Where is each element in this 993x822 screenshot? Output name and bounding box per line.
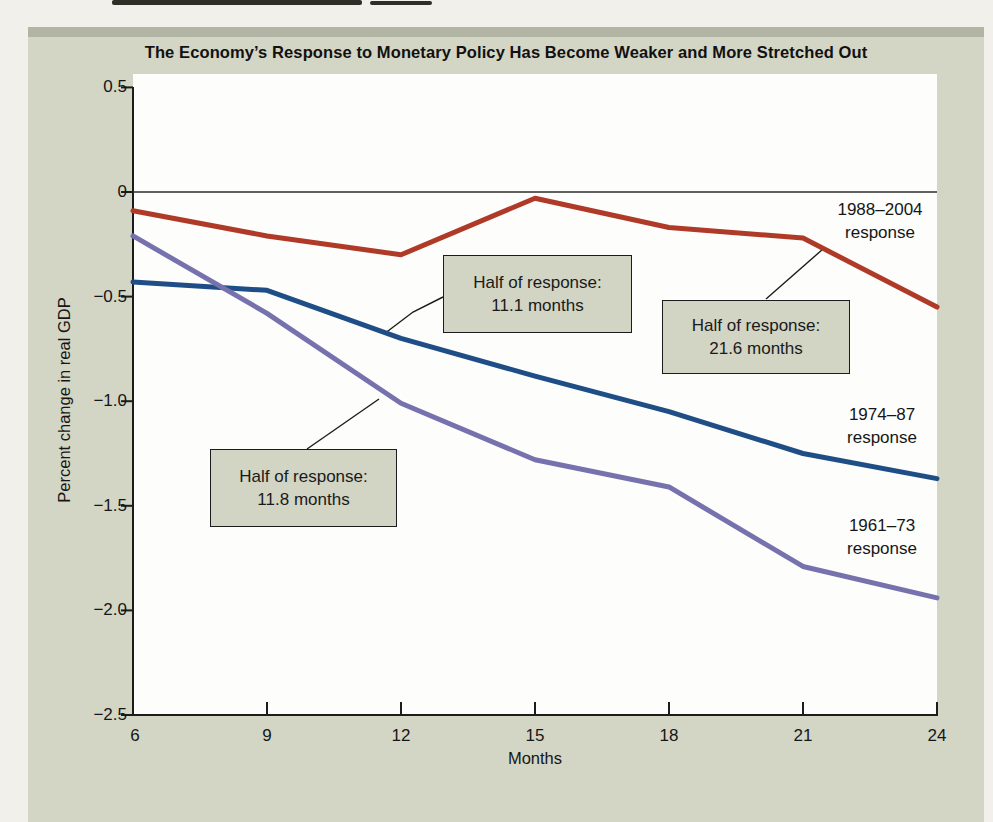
- x-axis-title: Months: [435, 749, 635, 768]
- series-label-years: 1961–73: [817, 514, 947, 537]
- callout-line2: 21.6 months: [663, 337, 849, 360]
- x-tick-label: 12: [379, 725, 423, 747]
- y-tick-label: 0.5: [55, 76, 127, 98]
- series-label-1961-73: 1961–73 response: [817, 514, 947, 560]
- y-axis-title: Percent change in real GDP: [55, 297, 74, 502]
- figure-scan: The Economy’s Response to Monetary Polic…: [0, 0, 993, 822]
- callout-half-response-1961-73: Half of response: 11.8 months: [210, 449, 397, 527]
- series-label-years: 1988–2004: [815, 198, 945, 221]
- series-label-response: response: [815, 221, 945, 244]
- series-label-response: response: [817, 537, 947, 560]
- y-tick-label: −2.0: [55, 599, 127, 621]
- x-tick-label: 9: [245, 725, 289, 747]
- callout-line1: Half of response:: [663, 314, 849, 337]
- callout-line1: Half of response:: [211, 465, 396, 488]
- callout-line2: 11.8 months: [211, 488, 396, 511]
- series-label-1974-87: 1974–87 response: [817, 403, 947, 449]
- x-tick-label: 6: [113, 725, 157, 747]
- leader-to-1988-2004-line: [766, 249, 823, 299]
- y-tick-label: −2.5: [55, 704, 127, 726]
- series-label-1988-2004: 1988–2004 response: [815, 198, 945, 244]
- x-tick-label: 21: [781, 725, 825, 747]
- axis-frame: [133, 87, 937, 715]
- callout-half-response-1974-87: Half of response: 11.1 months: [443, 255, 632, 333]
- series-label-response: response: [817, 426, 947, 449]
- leader-to-1961-73-line: [307, 399, 379, 449]
- y-tick-label: 0: [55, 181, 127, 203]
- leader-to-1974-87-line: [384, 297, 443, 334]
- callout-line1: Half of response:: [444, 271, 631, 294]
- x-tick-label: 15: [513, 725, 557, 747]
- x-tick-label: 24: [915, 725, 959, 747]
- series-label-years: 1974–87: [817, 403, 947, 426]
- callout-half-response-1988-2004: Half of response: 21.6 months: [662, 300, 850, 374]
- callout-line2: 11.1 months: [444, 294, 631, 317]
- x-tick-label: 18: [647, 725, 691, 747]
